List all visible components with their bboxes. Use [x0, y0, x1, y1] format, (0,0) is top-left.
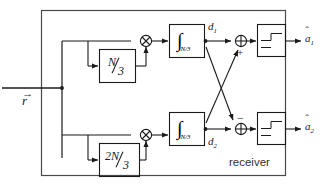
lower-output-hat: ˆ — [306, 114, 309, 124]
d1-subscript: 1 — [214, 27, 217, 34]
lower-decision-variable-label: d2 — [208, 136, 217, 147]
receiver-enclosure — [42, 11, 286, 176]
junction-input-split — [60, 86, 64, 90]
lower-threshold-glyph — [261, 122, 282, 136]
junction-upper-d1 — [204, 39, 208, 43]
lower-delay-label: 2N3 — [105, 151, 135, 172]
d1-base: d — [208, 20, 214, 32]
input-vector-arrow: → — [22, 88, 33, 99]
d2-base: d — [208, 135, 214, 147]
upper-adder-sign: + — [237, 47, 243, 58]
diagram-vector-layer — [0, 0, 322, 186]
lower-integral-range: N/3 — [180, 133, 190, 141]
receiver-caption: receiver — [229, 157, 270, 169]
upper-output-subscript: 1 — [311, 39, 314, 46]
input-label: →r — [22, 94, 27, 107]
lower-delay-denominator: 3 — [123, 159, 129, 171]
upper-delay-denominator: 3 — [118, 65, 124, 77]
upper-delay-label: N3 — [108, 57, 134, 78]
d2-subscript: 2 — [214, 142, 217, 149]
lower-output-subscript: 2 — [311, 127, 314, 134]
upper-output-label: ˆa1 — [305, 33, 314, 44]
lower-output-label: ˆa2 — [305, 121, 314, 132]
receiver-block-diagram: →r N3 2N3 ∫N/3 ∫N/3 d1 d2 + − ˆa1 ˆa2 re… — [0, 0, 322, 186]
upper-decision-variable-label: d1 — [208, 21, 217, 32]
cross-upper-to-lower — [206, 47, 233, 120]
upper-integrator-label: ∫N/3 — [177, 29, 193, 52]
upper-integral-range: N/3 — [180, 45, 190, 53]
upper-output-hat: ˆ — [306, 26, 309, 36]
junction-lower-d2 — [204, 127, 208, 131]
lower-delay-numerator: 2N — [105, 150, 119, 162]
lower-integrator-label: ∫N/3 — [177, 117, 193, 140]
upper-threshold-glyph — [261, 34, 282, 48]
lower-adder-sign: − — [237, 112, 244, 124]
